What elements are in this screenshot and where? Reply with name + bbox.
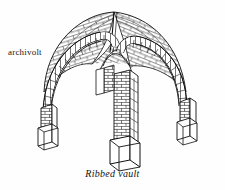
ribbed-vault-illustration bbox=[0, 0, 225, 190]
figure-caption: Ribbed vault bbox=[0, 168, 225, 180]
label-archivolt: archivolt bbox=[8, 47, 42, 58]
pier-left bbox=[38, 104, 58, 150]
figure-container: archivolt Ribbed vault bbox=[0, 0, 225, 190]
